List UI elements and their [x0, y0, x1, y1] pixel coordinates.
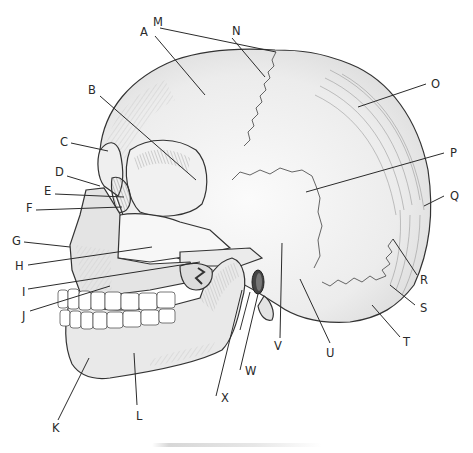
label-letter: C [60, 135, 68, 149]
label-letter: R [420, 273, 428, 287]
label-w: W [240, 294, 258, 378]
leader-line [24, 242, 70, 247]
label-letter: S [420, 301, 427, 315]
leader-line [58, 358, 89, 420]
label-letter: B [88, 83, 96, 97]
label-t: T [372, 305, 411, 349]
label-m: M [153, 15, 276, 52]
label-letter: J [21, 309, 25, 323]
upper-teeth [58, 289, 175, 310]
label-letter: H [15, 259, 24, 273]
label-letter: M [153, 15, 163, 29]
label-letter: W [245, 364, 256, 378]
label-letter: K [52, 421, 60, 435]
label-k: K [52, 358, 89, 435]
label-letter: X [221, 391, 229, 405]
label-letter: P [450, 146, 457, 160]
label-letter: L [136, 409, 143, 423]
leader-line [240, 294, 258, 370]
leader-line [160, 28, 276, 52]
label-letter: E [44, 184, 51, 198]
label-d: D [55, 165, 100, 186]
label-letter: Q [450, 189, 459, 203]
caption-illegible [152, 443, 322, 447]
label-letter: O [431, 77, 440, 91]
label-letter: N [232, 24, 241, 38]
label-letter: A [140, 25, 148, 39]
skull-diagram: ABCDEFGHIJKLMNOPQRSTUVWX [0, 0, 473, 453]
leader-line [67, 176, 100, 186]
label-letter: I [22, 285, 25, 299]
label-letter: T [402, 335, 411, 349]
label-letter: F [26, 201, 33, 215]
label-g: G [12, 234, 70, 248]
label-letter: U [326, 346, 334, 360]
label-letter: D [55, 165, 64, 179]
label-letter: G [12, 234, 21, 248]
label-letter: V [274, 339, 282, 353]
